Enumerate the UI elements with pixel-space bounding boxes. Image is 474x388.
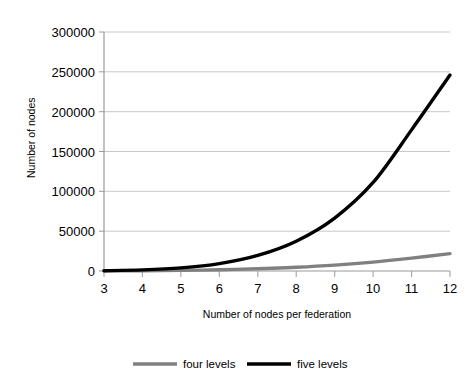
y-tick-label: 100000 [52, 184, 95, 199]
y-tick-labels: 300000 250000 200000 150000 100000 50000… [52, 25, 95, 279]
line-chart-svg: 300000 250000 200000 150000 100000 50000… [0, 0, 474, 388]
x-tick-label: 11 [405, 281, 419, 296]
chart-figure: · · · · · · · · [0, 0, 474, 388]
x-axis-title: Number of nodes per federation [203, 308, 351, 320]
x-tick-label: 9 [331, 281, 338, 296]
x-tick-label: 8 [293, 281, 300, 296]
plot-area-wrapper: 300000 250000 200000 150000 100000 50000… [0, 0, 474, 388]
y-axis-title: Number of nodes [25, 97, 37, 178]
y-tick-label: 250000 [52, 65, 95, 80]
legend-label-four-levels: four levels [183, 358, 236, 370]
y-tick-label: 50000 [59, 224, 95, 239]
x-tick-label: 7 [254, 281, 261, 296]
x-tick-label: 5 [177, 281, 184, 296]
y-tick-label: 150000 [52, 145, 95, 160]
x-tick-label: 3 [100, 281, 107, 296]
y-tick-marks [99, 32, 104, 271]
x-tick-label: 6 [216, 281, 223, 296]
y-tick-label: 0 [88, 264, 95, 279]
x-tick-label: 10 [366, 281, 380, 296]
chart-legend: four levels five levels [133, 358, 348, 370]
x-tick-label: 12 [443, 281, 457, 296]
x-tick-label: 4 [139, 281, 146, 296]
legend-label-five-levels: five levels [297, 358, 348, 370]
x-tick-labels: 3 4 5 6 7 8 9 10 11 12 [100, 281, 457, 296]
y-tick-label: 200000 [52, 105, 95, 120]
y-tick-label: 300000 [52, 25, 95, 40]
